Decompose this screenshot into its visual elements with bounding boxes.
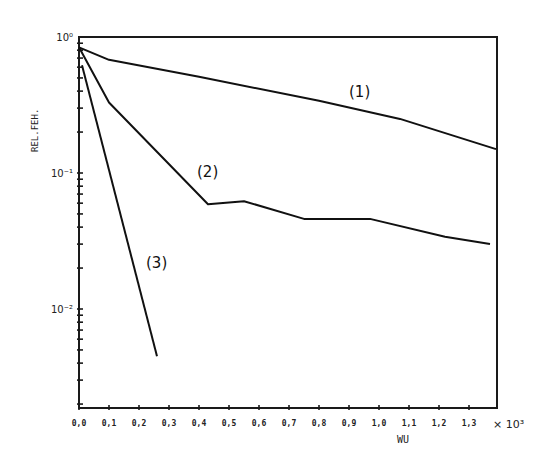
x-tick-label: 0,1 (102, 419, 117, 428)
curve-1 (79, 47, 496, 149)
plot-frame (79, 37, 497, 408)
curves (79, 47, 496, 356)
x-tick-label: 0,0 (72, 419, 87, 428)
curve-3 (82, 65, 157, 356)
x-tick-label: 1,0 (372, 419, 387, 428)
y-tick-label: 10⁻¹ (51, 168, 73, 179)
y-tick-label: 10⁻² (51, 304, 73, 315)
x-tick-label: 0,6 (252, 419, 267, 428)
x-tick-label: 0,9 (342, 419, 357, 428)
curve-label-3: (3) (146, 254, 167, 272)
x-tick-label: 0,5 (222, 419, 237, 428)
curve-2 (79, 47, 490, 244)
curve-label-1: (1) (349, 83, 370, 101)
x-tick-label: 1,3 (462, 419, 477, 428)
curve-label-2: (2) (197, 163, 218, 181)
y-axis-title: REL.FEH. (30, 109, 40, 152)
x-tick-label: 0,4 (192, 419, 207, 428)
x-tick-label: 1,2 (432, 419, 447, 428)
x-tick-label: 1,1 (402, 419, 417, 428)
x-tick-label: 0,8 (312, 419, 327, 428)
x-tick-label: 0,3 (162, 419, 177, 428)
x-axis-title: WU (397, 434, 409, 445)
x-tick-label: 0,7 (282, 419, 297, 428)
x-multiplier: × 10³ (493, 418, 524, 431)
x-tick-label: 0,2 (132, 419, 147, 428)
y-tick-label: 10⁰ (56, 32, 73, 43)
chart: 10⁰10⁻¹10⁻² 0,00,10,20,30,40,50,60,70,80… (0, 0, 560, 472)
